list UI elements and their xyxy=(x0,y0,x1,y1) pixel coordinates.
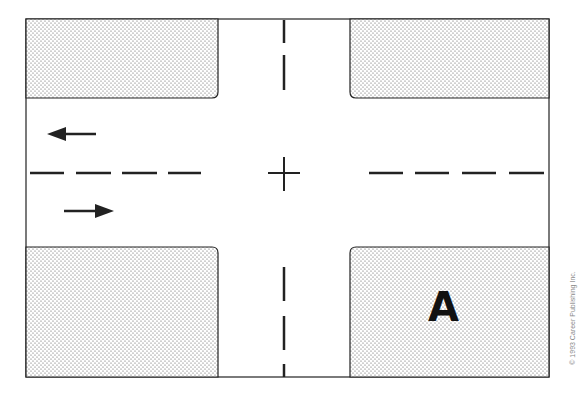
block-top-left xyxy=(26,19,218,98)
center-plus-icon xyxy=(268,157,300,191)
block-top-right xyxy=(350,19,549,98)
block-bottom-left xyxy=(26,247,218,377)
block-label-a: A xyxy=(428,284,459,330)
arrow-right-icon xyxy=(64,204,114,218)
copyright-notice: © 1993 Career Publishing Inc. xyxy=(569,271,576,365)
intersection-diagram xyxy=(0,0,587,401)
arrow-left-icon xyxy=(47,127,96,141)
